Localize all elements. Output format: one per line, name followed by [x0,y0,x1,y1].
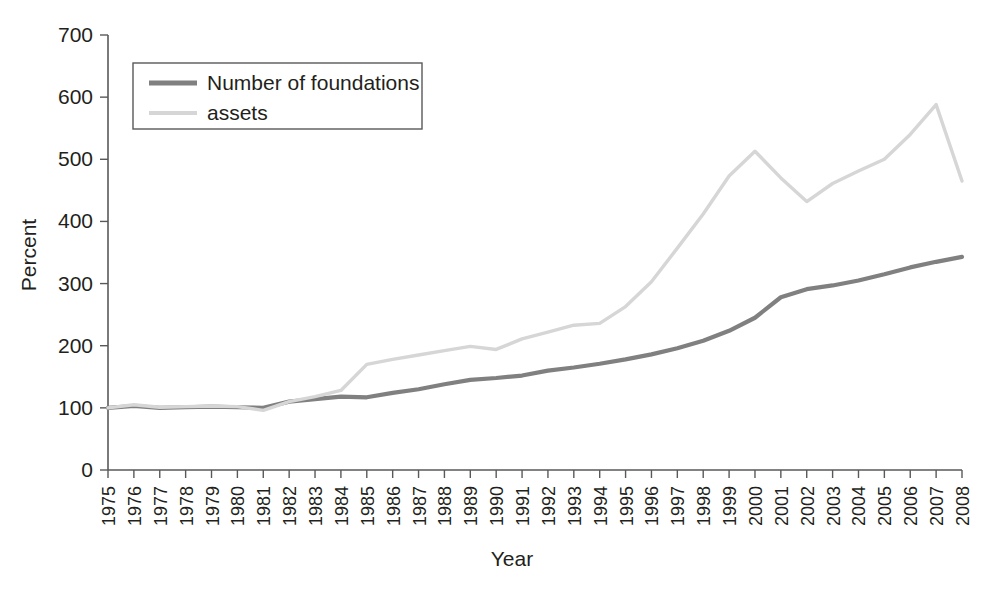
x-tick-label: 1998 [694,486,714,526]
x-tick-label: 1978 [177,486,197,526]
x-tick-label: 1990 [487,486,507,526]
x-tick-label: 1982 [280,486,300,526]
y-axis: 0100200300400500600700 [58,23,108,481]
x-tick-label: 1987 [410,486,430,526]
y-tick-label: 100 [58,396,93,419]
x-axis-title: Year [491,547,533,570]
y-tick-label: 400 [58,209,93,232]
x-tick-label: 1992 [539,486,559,526]
chart-legend: Number of foundationsassets [133,63,422,129]
x-tick-label: 2007 [927,486,947,526]
x-tick-label: 1994 [591,486,611,526]
x-tick-label: 1986 [384,486,404,526]
x-tick-label: 1988 [435,486,455,526]
x-tick-label: 1993 [565,486,585,526]
x-tick-label: 1981 [254,486,274,526]
legend-label-2: assets [207,101,268,124]
x-tick-label: 2005 [875,486,895,526]
line-chart: 0100200300400500600700 19751976197719781… [0,0,1004,594]
x-tick-label: 1975 [99,486,119,526]
x-tick-label: 2003 [824,486,844,526]
y-tick-label: 600 [58,85,93,108]
y-axis-title: Percent [17,219,40,292]
x-tick-label: 2001 [772,486,792,526]
x-tick-label: 2004 [849,486,869,526]
x-tick-label: 2008 [953,486,973,526]
x-tick-label: 2006 [901,486,921,526]
x-tick-label: 1980 [228,486,248,526]
legend-label-1: Number of foundations [207,71,419,94]
y-tick-label: 700 [58,23,93,46]
x-tick-label: 1976 [125,486,145,526]
chart-container: 0100200300400500600700 19751976197719781… [0,0,1004,594]
x-tick-label: 1991 [513,486,533,526]
x-tick-label: 2000 [746,486,766,526]
series-line-1 [108,257,962,408]
x-tick-label: 1985 [358,486,378,526]
series-lines [108,105,962,411]
y-tick-label: 200 [58,334,93,357]
series-line-2 [108,105,962,411]
y-tick-label: 0 [81,458,93,481]
y-tick-label: 500 [58,147,93,170]
x-axis: 1975197619771978197919801981198219831984… [99,470,973,526]
x-tick-label: 2002 [798,486,818,526]
x-tick-label: 1997 [668,486,688,526]
x-tick-label: 1999 [720,486,740,526]
x-tick-label: 1996 [642,486,662,526]
x-tick-label: 1977 [151,486,171,526]
x-tick-label: 1979 [203,486,223,526]
x-tick-label: 1984 [332,486,352,526]
y-tick-label: 300 [58,272,93,295]
x-tick-label: 1989 [461,486,481,526]
x-tick-label: 1995 [617,486,637,526]
x-tick-label: 1983 [306,486,326,526]
